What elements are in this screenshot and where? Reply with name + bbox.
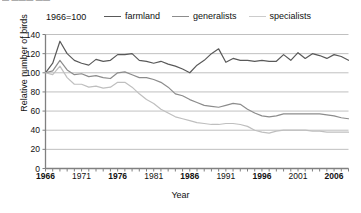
x-tick-label: 1971 <box>72 171 91 181</box>
y-tick-label: 120 <box>26 49 40 59</box>
axis-lines <box>46 35 349 169</box>
x-tick-label: 1981 <box>144 171 163 181</box>
bird-population-chart: ▬ ▬▬▬ ▬▬ 1966=100 farmland generalists s… <box>0 0 361 213</box>
y-tick-label: 60 <box>31 106 40 116</box>
legend-label-generalists: generalists <box>193 12 237 21</box>
x-tick-label: 1991 <box>216 171 235 181</box>
x-tick-label: 1986 <box>180 171 199 181</box>
x-tick-label: 1976 <box>108 171 127 181</box>
y-tick-label: 100 <box>26 68 40 78</box>
y-tick-label: 80 <box>31 87 40 97</box>
x-tick-label: 1996 <box>252 171 271 181</box>
x-axis-title: Year <box>0 190 361 200</box>
y-tick-label: 140 <box>26 30 40 40</box>
x-tick-label: 2006 <box>325 171 344 181</box>
series-line-farmland <box>46 41 349 73</box>
baseline-note: 1966=100 <box>46 12 86 22</box>
legend-item-farmland: farmland <box>104 12 160 21</box>
x-axis-tick-labels: 196619711976198119861991199620012006 <box>0 171 361 185</box>
legend-label-specialists: specialists <box>270 12 312 21</box>
legend-line-specialists <box>249 16 266 17</box>
legend-label-farmland: farmland <box>125 12 160 21</box>
legend-line-farmland <box>104 16 121 17</box>
chart-legend: farmland generalists specialists <box>104 12 311 21</box>
legend-item-generalists: generalists <box>172 12 237 21</box>
data-series <box>46 41 349 133</box>
y-tick-label: 40 <box>31 125 40 135</box>
x-tick-label: 1966 <box>36 171 55 181</box>
series-line-generalists <box>46 60 349 118</box>
y-tick-label: 20 <box>31 144 40 154</box>
gridlines <box>46 35 349 169</box>
legend-item-specialists: specialists <box>249 12 312 21</box>
x-tick-label: 2001 <box>289 171 308 181</box>
legend-line-generalists <box>172 16 189 17</box>
